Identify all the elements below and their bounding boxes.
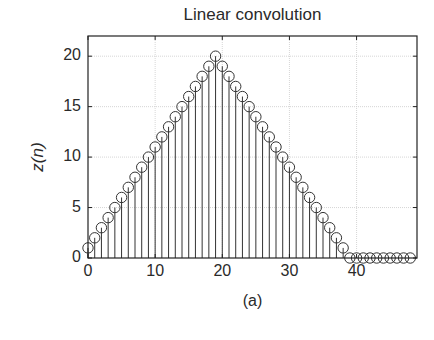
- x-tick-label: 30: [274, 262, 304, 280]
- y-tick-label: 20: [44, 46, 81, 64]
- y-tick-label: 15: [44, 97, 81, 115]
- y-tick-label: 5: [44, 198, 81, 216]
- y-tick-label: 10: [44, 147, 81, 165]
- axes-box: [88, 36, 417, 258]
- y-tick-label: 0: [44, 248, 81, 266]
- x-tick-label: 20: [207, 262, 237, 280]
- x-tick-label: 40: [342, 262, 372, 280]
- axis-ticks: [88, 36, 417, 258]
- x-tick-label: 10: [140, 262, 170, 280]
- grid-lines: [88, 36, 417, 258]
